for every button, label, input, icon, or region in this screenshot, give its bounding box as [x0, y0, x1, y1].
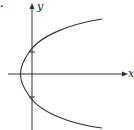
parabola-diagram [0, 0, 134, 130]
x-axis-label: x [128, 68, 134, 79]
y-axis-label: y [37, 1, 43, 12]
y-axis-arrow-icon [30, 3, 35, 9]
